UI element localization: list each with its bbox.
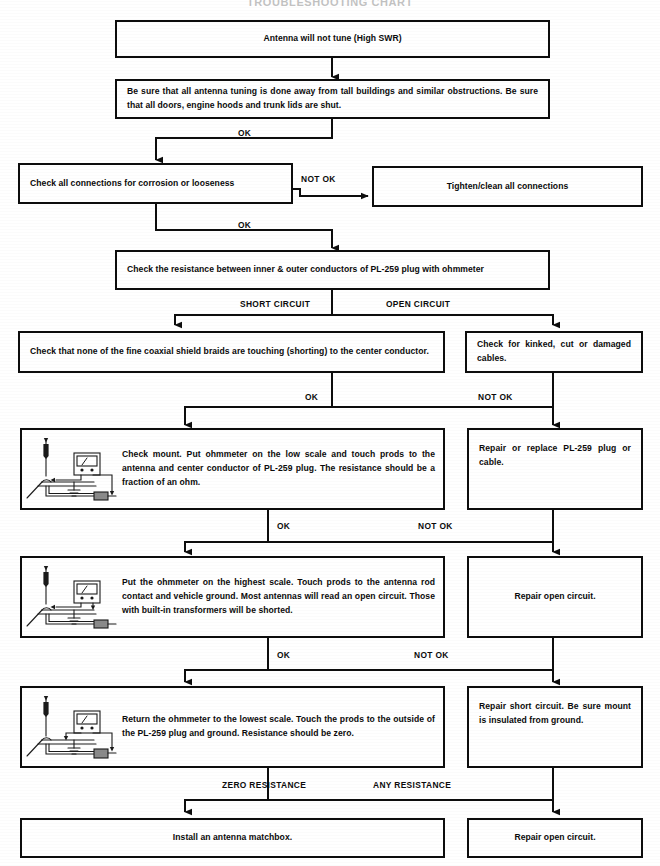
troubleshooting-flowchart: TROUBLESHOOTING CHART bbox=[0, 0, 660, 866]
node-lowest-scale: Return the ohmmeter to the lowest scale.… bbox=[20, 686, 445, 768]
node-install-matchbox: Install an antenna matchbox. bbox=[20, 818, 445, 858]
edge-label-ok-4: OK bbox=[277, 521, 290, 531]
edge-label-zero-resistance: ZERO RESISTANCE bbox=[222, 780, 306, 790]
node-check-braids: Check that none of the fine coaxial shie… bbox=[18, 331, 445, 373]
node-check-cables-text: Check for kinked, cut or damaged cables. bbox=[467, 338, 641, 366]
edge-label-ok-2: OK bbox=[238, 220, 251, 230]
node-check-mount-text: Check mount. Put ohmmeter on the low sca… bbox=[122, 448, 443, 490]
node-check-cables: Check for kinked, cut or damaged cables. bbox=[465, 331, 643, 373]
node-start: Antenna will not tune (High SWR) bbox=[115, 20, 550, 58]
antenna-ohmmeter-diagram-2 bbox=[22, 558, 122, 636]
node-repair-open-1-text: Repair open circuit. bbox=[469, 590, 641, 604]
node-repair-short-text: Repair short circuit. Be sure mount is i… bbox=[469, 688, 641, 728]
page-title: TROUBLESHOOTING CHART bbox=[0, 0, 660, 8]
node-check-braids-text: Check that none of the fine coaxial shie… bbox=[20, 345, 439, 359]
edge-label-open-circuit: OPEN CIRCUIT bbox=[386, 299, 450, 309]
edge-label-not-ok-4: NOT OK bbox=[418, 521, 453, 531]
edge-label-any-resistance: ANY RESISTANCE bbox=[373, 780, 451, 790]
node-check-connections: Check all connections for corrosion or l… bbox=[18, 163, 293, 204]
node-tighten-connections-text: Tighten/clean all connections bbox=[374, 180, 641, 194]
node-check-resistance: Check the resistance between inner & out… bbox=[115, 250, 550, 290]
edge-label-not-ok-5: NOT OK bbox=[414, 650, 449, 660]
edge-label-ok-1: OK bbox=[238, 128, 251, 138]
antenna-ohmmeter-diagram-3 bbox=[22, 688, 122, 766]
antenna-ohmmeter-diagram-1 bbox=[22, 430, 122, 508]
edge-label-ok-5: OK bbox=[277, 650, 290, 660]
node-check-connections-text: Check all connections for corrosion or l… bbox=[20, 177, 244, 191]
edge-label-short-circuit: SHORT CIRCUIT bbox=[240, 299, 310, 309]
edge-label-not-ok-1: NOT OK bbox=[301, 174, 336, 184]
node-repair-plug: Repair or replace PL-259 plug or cable. bbox=[467, 428, 643, 510]
node-check-resistance-text: Check the resistance between inner & out… bbox=[117, 263, 494, 277]
node-repair-open-2-text: Repair open circuit. bbox=[469, 831, 641, 845]
node-tighten-connections: Tighten/clean all connections bbox=[372, 166, 643, 207]
edge-label-not-ok-3: NOT OK bbox=[478, 392, 513, 402]
node-highest-scale: Put the ohmmeter on the highest scale. T… bbox=[20, 556, 445, 638]
node-install-matchbox-text: Install an antenna matchbox. bbox=[22, 831, 443, 845]
edge-label-ok-3: OK bbox=[305, 392, 318, 402]
node-precheck-text: Be sure that all antenna tuning is done … bbox=[117, 85, 548, 113]
node-repair-short: Repair short circuit. Be sure mount is i… bbox=[467, 686, 643, 768]
node-repair-open-1: Repair open circuit. bbox=[467, 556, 643, 638]
node-repair-open-2: Repair open circuit. bbox=[467, 818, 643, 858]
node-repair-plug-text: Repair or replace PL-259 plug or cable. bbox=[469, 430, 641, 470]
node-lowest-scale-text: Return the ohmmeter to the lowest scale.… bbox=[122, 713, 443, 741]
node-precheck: Be sure that all antenna tuning is done … bbox=[115, 79, 550, 119]
node-highest-scale-text: Put the ohmmeter on the highest scale. T… bbox=[122, 576, 443, 618]
node-check-mount: Check mount. Put ohmmeter on the low sca… bbox=[20, 428, 445, 510]
node-start-text: Antenna will not tune (High SWR) bbox=[117, 32, 548, 46]
